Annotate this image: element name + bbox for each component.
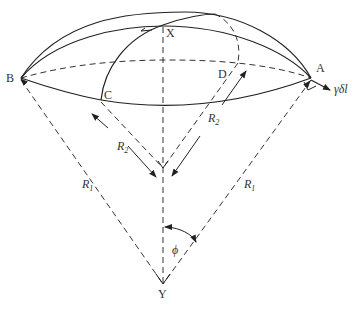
radius-r2-from-c xyxy=(101,102,163,168)
radius-r2-from-d xyxy=(163,63,238,168)
right-angle-mark-x xyxy=(141,28,152,31)
radius-r1-right xyxy=(163,80,311,284)
back-equator-dashed xyxy=(21,60,311,78)
point-d-label: D xyxy=(218,67,227,81)
point-y-label: Y xyxy=(158,287,167,301)
point-x-label: X xyxy=(166,26,175,40)
point-a-label: A xyxy=(316,61,325,75)
a-arrow-r1 xyxy=(305,81,310,87)
force-label: γδl xyxy=(334,82,348,96)
r1-left-label: R1 xyxy=(81,177,93,193)
r2-right-arrow-down xyxy=(172,136,200,176)
force-arrow xyxy=(311,80,330,90)
r1-right-label: R1 xyxy=(243,177,255,193)
geometry-diagram: B A C D X Y γδl R2 R2 R1 R1 ϕ xyxy=(0,0,356,309)
phi-angle-arc xyxy=(167,227,196,242)
point-c-label: C xyxy=(104,88,112,102)
meridian-front-arc xyxy=(101,14,215,100)
meridian-back-arc xyxy=(215,14,239,62)
point-b-label: B xyxy=(6,71,14,85)
r2-left-label: R2 xyxy=(116,139,128,155)
radius-r1-left xyxy=(21,80,163,284)
phi-label: ϕ xyxy=(172,243,178,257)
r2-left-arrow-down xyxy=(128,146,156,177)
r2-left-arrow-up xyxy=(92,114,108,128)
bottom-front-arc xyxy=(21,78,311,105)
r2-right-label: R2 xyxy=(207,111,219,127)
